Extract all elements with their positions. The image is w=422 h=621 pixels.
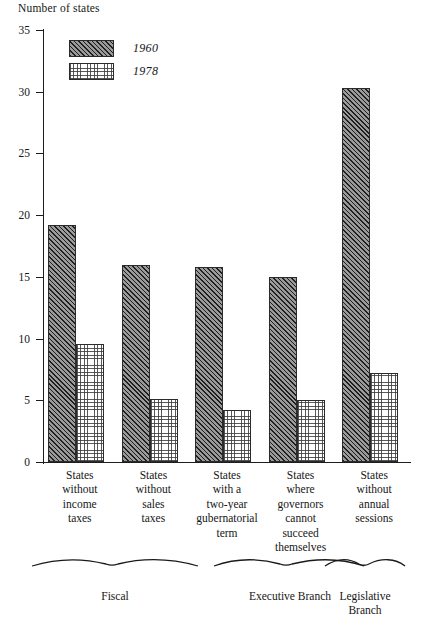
group-label-legislative-line2: Branch	[348, 604, 381, 616]
chart-figure: Number of states 05101520253035 1960 197…	[0, 0, 422, 621]
category-label-line: two-year	[207, 498, 248, 510]
category-label-line: sales	[142, 498, 164, 510]
category-label-line: income	[63, 498, 97, 510]
y-tick-label: 30	[0, 86, 30, 98]
x-axis-line	[43, 462, 411, 463]
category-label-2: Stateswithoutsalestaxes	[115, 468, 193, 526]
bar-1978-group-4	[297, 400, 325, 462]
category-label-line: without	[136, 483, 171, 495]
y-axis-title: Number of states	[18, 2, 100, 14]
category-label-line: States	[213, 469, 240, 481]
bars-layer	[43, 30, 411, 462]
y-tick-mark	[36, 462, 44, 463]
category-label-line: States	[360, 469, 387, 481]
category-label-line: gubernatorial	[196, 512, 257, 524]
y-tick-label: 35	[0, 24, 30, 36]
category-label-line: with a	[213, 483, 241, 495]
bar-1978-group-2	[150, 399, 178, 462]
category-label-line: without	[357, 483, 392, 495]
group-label-legislative-line1: Legislative	[339, 590, 390, 602]
category-label-line: succeed	[282, 527, 318, 539]
bar-1960-group-4	[269, 277, 297, 462]
category-label-line: States	[140, 469, 167, 481]
category-label-line: where	[287, 483, 315, 495]
category-label-line: annual	[359, 498, 390, 510]
bar-1960-group-3	[195, 267, 223, 462]
category-label-line: States	[287, 469, 314, 481]
category-label-line: without	[62, 483, 97, 495]
x-axis-category-labels: StateswithoutincometaxesStateswithoutsal…	[43, 468, 411, 558]
category-label-line: term	[216, 527, 237, 539]
y-tick-label: 0	[0, 456, 30, 468]
bar-1978-group-5	[370, 373, 398, 462]
y-tick-label: 15	[0, 271, 30, 283]
y-tick-label: 5	[0, 394, 30, 406]
group-section: Fiscal Executive Branch Legislative Bran…	[0, 556, 422, 621]
category-label-3: Stateswith atwo-yeargubernatorialterm	[188, 468, 266, 540]
category-label-line: cannot	[285, 512, 316, 524]
category-label-line: taxes	[142, 512, 166, 524]
y-tick-label: 20	[0, 209, 30, 221]
bar-1960-group-5	[342, 88, 370, 462]
bar-1978-group-3	[223, 410, 251, 462]
category-label-5: Stateswithoutannualsessions	[335, 468, 413, 526]
category-label-line: sessions	[355, 512, 393, 524]
group-label-legislative: Legislative Branch	[323, 589, 407, 617]
bar-1960-group-1	[48, 225, 76, 462]
bar-1978-group-1	[76, 344, 104, 462]
category-label-line: taxes	[68, 512, 92, 524]
group-brace-legislative	[323, 556, 407, 572]
category-label-line: themselves	[275, 541, 326, 553]
group-brace-fiscal	[30, 556, 200, 572]
y-tick-label: 25	[0, 147, 30, 159]
category-label-1: Stateswithoutincometaxes	[41, 468, 119, 526]
category-label-line: States	[66, 469, 93, 481]
y-tick-label: 10	[0, 333, 30, 345]
category-label-4: Stateswheregovernorscannotsucceedthemsel…	[262, 468, 340, 554]
group-label-fiscal: Fiscal	[45, 589, 185, 603]
category-label-line: governors	[278, 498, 324, 510]
bar-1960-group-2	[122, 265, 150, 462]
